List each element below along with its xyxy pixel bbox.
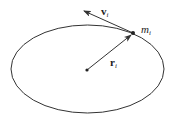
mass-point	[131, 31, 135, 35]
center-point	[85, 68, 88, 71]
mass-label: mi	[141, 23, 151, 37]
velocity-label: vi	[101, 5, 109, 19]
position-vector-arrow	[87, 35, 131, 70]
position-label: ri	[110, 56, 117, 70]
orbit-diagram: vi ri mi	[0, 0, 172, 120]
velocity-vector-arrow	[84, 11, 133, 33]
